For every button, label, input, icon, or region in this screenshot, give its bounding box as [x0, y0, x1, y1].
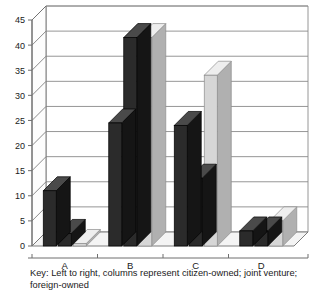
ytick-label: 15	[15, 166, 25, 176]
legend-line-1: Key: Left to right, columns represent ci…	[30, 268, 297, 278]
bar-c-citizen-owned-side	[187, 111, 201, 246]
bar-b-citizen-owned	[109, 123, 122, 246]
ytick-label: 30	[15, 91, 25, 101]
bar-a-citizen-owned	[43, 191, 56, 246]
column-chart: 051015202530354045ABCDKey: Left to right…	[0, 0, 311, 295]
bar-c-citizen-owned	[174, 125, 187, 246]
bar-a-foreign-owned	[73, 243, 86, 246]
ytick-label: 25	[15, 116, 25, 126]
ytick-label: 40	[15, 41, 25, 51]
ytick-label: 10	[15, 191, 25, 201]
bar-c-foreign-owned-side	[217, 61, 231, 246]
legend-line-2: foreign-owned	[30, 280, 89, 290]
bar-b-joint-venture-side	[137, 24, 151, 246]
ytick-label: 45	[15, 15, 25, 25]
bar-b-foreign-owned-side	[152, 24, 166, 246]
ytick-label: 0	[20, 241, 25, 251]
ytick-label: 20	[15, 141, 25, 151]
ytick-label: 5	[20, 216, 25, 226]
ytick-label: 35	[15, 66, 25, 76]
chart-canvas: 051015202530354045ABCDKey: Left to right…	[0, 0, 311, 295]
bar-b-citizen-owned-side	[122, 109, 136, 246]
bar-d-citizen-owned	[240, 231, 253, 246]
